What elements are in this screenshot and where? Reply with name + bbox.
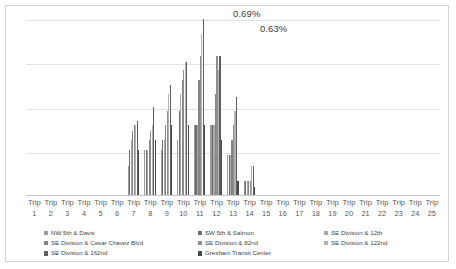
legend-item[interactable]: Gresham Transit Center [198, 248, 271, 258]
x-tick-number: 5 [92, 209, 109, 220]
legend-item[interactable]: SW 5th & Salmon [198, 228, 271, 238]
legend-item[interactable]: SE Division & Cesar Chavez Blvd [44, 238, 143, 248]
x-tick-word: Trip [225, 198, 242, 209]
x-tick-word: Trip [26, 198, 43, 209]
bar [188, 125, 189, 195]
x-tick-word: Trip [43, 198, 60, 209]
bar [138, 150, 139, 195]
bar-cluster [177, 62, 189, 195]
x-tick-number: 9 [159, 209, 176, 220]
x-tick-word: Trip [291, 198, 308, 209]
x-tick-word: Trip [308, 198, 325, 209]
legend-label: SE Division & Cesar Chavez Blvd [51, 238, 143, 248]
x-tick-number: 11 [192, 209, 209, 220]
chart-legend: NW 5th & DavisSE Division & Cesar Chavez… [26, 228, 440, 260]
x-tick-label: Trip7 [125, 198, 142, 226]
x-axis-labels: Trip1Trip2Trip3Trip4Trip5Trip6Trip7Trip8… [26, 198, 440, 226]
legend-item[interactable]: SE Division & 122nd [324, 238, 387, 248]
legend-column: SW 5th & SalmonSE Division & 82ndGresham… [198, 228, 271, 259]
x-tick-label: Trip13 [225, 198, 242, 226]
x-tick-word: Trip [192, 198, 209, 209]
x-tick-word: Trip [341, 198, 358, 209]
x-tick-word: Trip [258, 198, 275, 209]
x-tick-number: 2 [43, 209, 60, 220]
legend-swatch-icon [324, 231, 328, 235]
x-tick-number: 7 [125, 209, 142, 220]
x-tick-word: Trip [125, 198, 142, 209]
x-tick-label: Trip23 [390, 198, 407, 226]
bar-cluster [194, 19, 206, 195]
x-tick-word: Trip [92, 198, 109, 209]
x-tick-number: 10 [175, 209, 192, 220]
legend-item[interactable]: SE Division & 82nd [198, 238, 271, 248]
x-tick-number: 23 [390, 209, 407, 220]
x-tick-number: 17 [291, 209, 308, 220]
x-tick-number: 13 [225, 209, 242, 220]
x-tick-label: Trip10 [175, 198, 192, 226]
bar [204, 125, 205, 195]
legend-swatch-icon [44, 231, 48, 235]
bar-cluster [128, 121, 140, 195]
x-tick-word: Trip [208, 198, 225, 209]
legend-swatch-icon [198, 251, 202, 255]
x-tick-label: Trip15 [258, 198, 275, 226]
x-tick-word: Trip [142, 198, 159, 209]
x-tick-label: Trip11 [192, 198, 209, 226]
x-tick-word: Trip [241, 198, 258, 209]
x-tick-word: Trip [407, 198, 424, 209]
x-tick-number: 4 [76, 209, 93, 220]
x-tick-number: 18 [308, 209, 325, 220]
x-tick-label: Trip5 [92, 198, 109, 226]
bar [221, 140, 222, 195]
bar [171, 125, 172, 195]
bar-cluster [227, 97, 239, 195]
legend-label: SE Division & 12th [331, 228, 382, 238]
x-tick-label: Trip6 [109, 198, 126, 226]
x-tick-number: 6 [109, 209, 126, 220]
x-tick-number: 3 [59, 209, 76, 220]
plot-area: 0.69%0.63% [26, 20, 440, 196]
x-tick-word: Trip [390, 198, 407, 209]
legend-item[interactable]: NW 5th & Davis [44, 228, 143, 238]
bar [155, 140, 156, 195]
legend-column: SE Division & 12thSE Division & 122nd [324, 228, 387, 248]
x-tick-label: Trip20 [341, 198, 358, 226]
x-tick-word: Trip [357, 198, 374, 209]
legend-label: SE Division & 162nd [51, 248, 107, 258]
x-tick-label: Trip9 [159, 198, 176, 226]
legend-label: SW 5th & Salmon [205, 228, 254, 238]
x-tick-number: 24 [407, 209, 424, 220]
x-tick-word: Trip [159, 198, 176, 209]
x-tick-word: Trip [109, 198, 126, 209]
x-tick-label: Trip14 [241, 198, 258, 226]
x-tick-number: 19 [324, 209, 341, 220]
x-tick-label: Trip12 [208, 198, 225, 226]
legend-swatch-icon [324, 241, 328, 245]
legend-column: NW 5th & DavisSE Division & Cesar Chavez… [44, 228, 143, 259]
x-tick-number: 25 [424, 209, 441, 220]
x-tick-label: Trip18 [308, 198, 325, 226]
x-tick-label: Trip3 [59, 198, 76, 226]
x-tick-label: Trip22 [374, 198, 391, 226]
legend-item[interactable]: SE Division & 162nd [44, 248, 143, 258]
bar [254, 187, 255, 195]
x-tick-number: 15 [258, 209, 275, 220]
legend-swatch-icon [198, 231, 202, 235]
x-tick-number: 1 [26, 209, 43, 220]
legend-swatch-icon [44, 251, 48, 255]
legend-item[interactable]: SE Division & 12th [324, 228, 387, 238]
x-tick-label: Trip8 [142, 198, 159, 226]
bar-cluster [210, 56, 222, 195]
bars-layer [26, 20, 440, 196]
bar-cluster [144, 107, 156, 195]
legend-label: SE Division & 82nd [205, 238, 258, 248]
bar-cluster [161, 85, 173, 195]
x-tick-label: Trip19 [324, 198, 341, 226]
x-tick-word: Trip [76, 198, 93, 209]
x-tick-label: Trip25 [424, 198, 441, 226]
x-tick-number: 16 [274, 209, 291, 220]
x-tick-label: Trip2 [43, 198, 60, 226]
legend-swatch-icon [44, 241, 48, 245]
x-tick-word: Trip [175, 198, 192, 209]
x-tick-label: Trip21 [357, 198, 374, 226]
